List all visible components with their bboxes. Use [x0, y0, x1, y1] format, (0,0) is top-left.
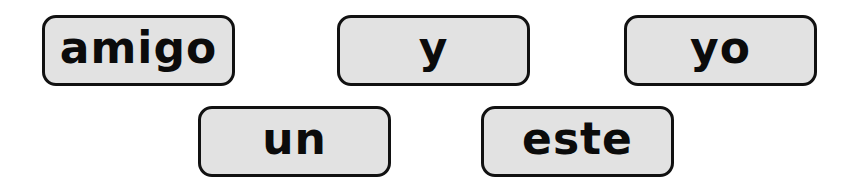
word-tile-un[interactable]: un	[198, 106, 391, 177]
word-tile-este[interactable]: este	[481, 106, 674, 177]
word-tile-yo[interactable]: yo	[624, 15, 817, 86]
word-tile-amigo[interactable]: amigo	[42, 15, 235, 86]
word-tile-label: y	[419, 26, 449, 70]
word-tile-label: yo	[690, 26, 751, 70]
word-tile-y[interactable]: y	[337, 15, 530, 86]
word-tile-label: un	[262, 117, 327, 161]
word-tile-label: este	[522, 117, 633, 161]
word-tile-label: amigo	[60, 26, 217, 70]
